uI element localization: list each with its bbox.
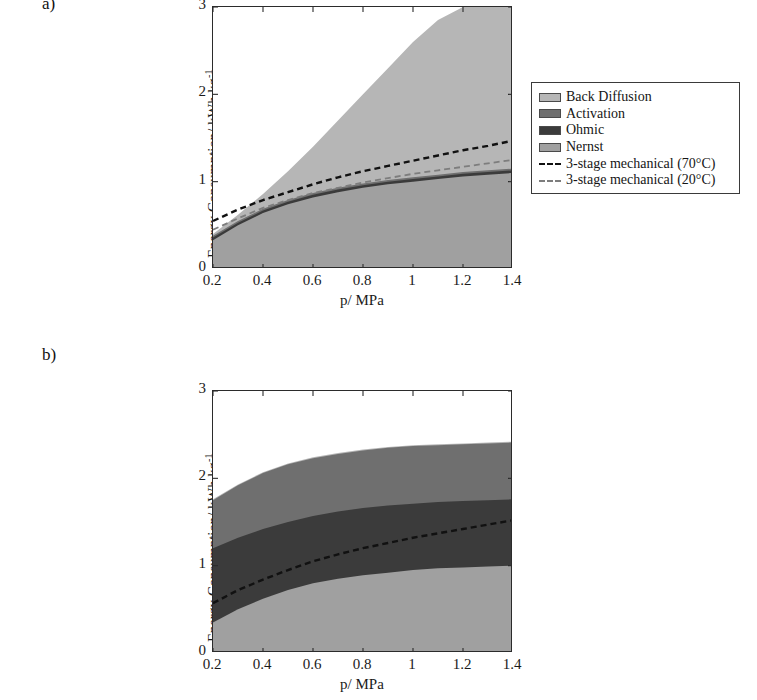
x-tick-label: 1.4 [492,656,532,673]
y-tick-label: 0 [180,258,206,275]
legend-item-ohmic[interactable]: Ohmic [539,122,732,139]
legend-swatch-icon [539,143,561,152]
legend-swatch-icon [539,109,561,118]
plot-frame-a [212,6,512,268]
plot-area-a [212,6,512,268]
y-tick-label: 1 [180,171,206,188]
legend-item-label: Back Diffusion [566,89,652,105]
legend-item-label: Nernst [566,139,603,155]
x-tick-label: 1 [392,272,432,289]
y-tick-label: 3 [180,380,206,397]
legend-item-back-diffusion[interactable]: Back Diffusion [539,89,732,106]
panel-label-b: b) [42,345,56,365]
x-tick-label: 0.8 [342,656,382,673]
plot-frame-b [212,390,512,652]
legend-item-label: Activation [566,106,625,122]
legend-item-label: Ohmic [566,122,604,138]
x-axis-title-b: p/ MPa [292,676,432,693]
legend-dashed-line-icon [539,159,561,168]
legend-swatch-icon [539,93,561,102]
legend-dashed-line-icon [539,176,561,185]
x-tick-label: 0.6 [292,656,332,673]
x-axis-title-a: p/ MPa [292,292,432,309]
x-tick-label: 0.4 [242,272,282,289]
legend-item-3-stage-mechanical-20-c[interactable]: 3-stage mechanical (20°C) [539,172,732,189]
x-tick-label: 0.4 [242,656,282,673]
legend-item-label: 3-stage mechanical (20°C) [566,172,715,188]
figure-panel-b: Energy Consumption/ kWh kg-1 p/ MPa Back… [0,370,757,700]
y-tick-label: 0 [180,642,206,659]
y-tick-label: 1 [180,555,206,572]
legend-swatch-icon [539,126,561,135]
legend-item-label: 3-stage mechanical (70°C) [566,156,715,172]
legend-item-activation[interactable]: Activation [539,106,732,123]
x-tick-label: 1.2 [442,272,482,289]
legend-item-nernst[interactable]: Nernst [539,139,732,156]
legend-panel-a: Back DiffusionActivationOhmicNernst3-sta… [531,82,740,194]
chart-canvas-b [213,391,512,652]
panel-label-a: a) [42,0,55,14]
x-tick-label: 1.4 [492,272,532,289]
legend-item-3-stage-mechanical-70-c[interactable]: 3-stage mechanical (70°C) [539,155,732,172]
y-tick-label: 3 [180,0,206,13]
chart-canvas-a [213,7,512,268]
plot-area-b [212,390,512,652]
y-tick-label: 2 [180,83,206,100]
y-tick-label: 2 [180,467,206,484]
x-tick-label: 0.6 [292,272,332,289]
figure-panel-a: a) Energy Consumption/ kWh kg-1 p/ MPa B… [0,0,757,330]
x-tick-label: 0.8 [342,272,382,289]
x-tick-label: 1.2 [442,656,482,673]
x-tick-label: 1 [392,656,432,673]
